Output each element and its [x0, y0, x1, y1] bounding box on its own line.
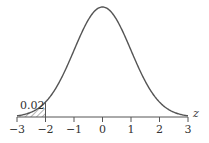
- x-tick-label: 0: [99, 123, 106, 136]
- x-tick-label: 1: [128, 123, 135, 136]
- x-tick-label: −2: [37, 123, 53, 136]
- x-tick-labels: −3−2−10123: [9, 123, 192, 136]
- normal-curve-chart: −3−2−10123 0.02 z: [0, 0, 209, 143]
- x-axis: [17, 117, 188, 122]
- x-tick-label: 3: [185, 123, 192, 136]
- chart-svg: −3−2−10123 0.02 z: [0, 0, 209, 143]
- tail-area-label: 0.02: [20, 99, 45, 112]
- x-tick-label: 2: [156, 123, 163, 136]
- axis-variable-label: z: [192, 107, 199, 120]
- x-tick-label: −1: [66, 123, 82, 136]
- x-tick-label: −3: [9, 123, 25, 136]
